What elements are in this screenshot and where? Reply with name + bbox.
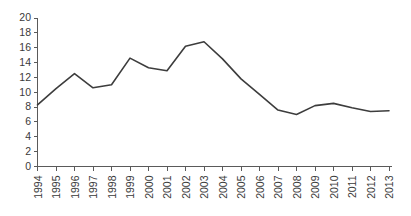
y-axis-tick-label: 18 [19, 26, 31, 38]
x-axis-tick-label: 2007 [272, 175, 284, 199]
x-axis-tick-label: 2011 [346, 175, 358, 198]
x-axis-ticks [38, 167, 390, 171]
x-axis-tick-label: 2012 [365, 175, 377, 199]
y-axis-tick-label: 12 [19, 71, 31, 83]
x-axis-tick-label: 2005 [235, 175, 247, 199]
line-chart: 02468101214161820 1994199519961997199819… [0, 0, 411, 216]
y-axis-tick-label: 14 [19, 56, 31, 68]
x-axis-tick-label: 2002 [180, 175, 192, 199]
data-series-line [38, 42, 390, 115]
x-axis-tick-label: 2004 [217, 175, 229, 199]
y-axis-tick-labels: 02468101214161820 [19, 11, 31, 172]
x-axis-tick-label: 2013 [383, 175, 395, 199]
y-axis-tick-label: 0 [25, 160, 31, 172]
x-axis-tick-label: 2000 [143, 175, 155, 199]
x-axis-tick-label: 1995 [50, 175, 62, 199]
y-axis-tick-label: 2 [25, 145, 31, 157]
x-axis-tick-label: 2010 [328, 175, 340, 199]
y-axis-tick-label: 6 [25, 115, 31, 127]
y-axis-tick-label: 8 [25, 100, 31, 112]
y-axis-tick-label: 4 [25, 130, 31, 142]
x-axis-tick-label: 1997 [87, 175, 99, 199]
x-axis-tick-label: 1999 [124, 175, 136, 199]
x-axis-tick-label: 1998 [106, 175, 118, 199]
x-axis-tick-labels: 1994199519961997199819992000200120022003… [32, 175, 396, 199]
y-axis-tick-label: 10 [19, 86, 31, 98]
y-axis-ticks [34, 18, 38, 167]
x-axis-tick-label: 1994 [32, 175, 44, 199]
x-axis-tick-label: 2006 [254, 175, 266, 199]
x-axis-tick-label: 2008 [291, 175, 303, 199]
x-axis-tick-label: 2009 [309, 175, 321, 199]
y-axis-tick-label: 20 [19, 11, 31, 23]
x-axis-tick-label: 2003 [198, 175, 210, 199]
x-axis-tick-label: 2001 [161, 175, 173, 199]
x-axis-tick-label: 1996 [69, 175, 81, 199]
chart-canvas: 02468101214161820 1994199519961997199819… [0, 0, 411, 216]
y-axis-tick-label: 16 [19, 41, 31, 53]
